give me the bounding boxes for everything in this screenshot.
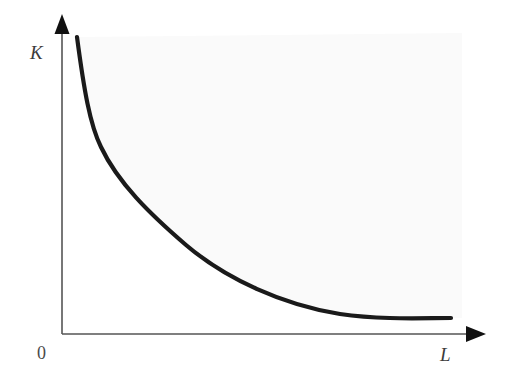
labor-axis-label: L (440, 345, 451, 364)
isoquant-figure: K L 0 (0, 0, 512, 381)
arrow-up-icon (55, 14, 70, 34)
origin-label: 0 (37, 344, 46, 362)
plot-area (0, 0, 512, 381)
capital-axis-label: K (30, 43, 43, 62)
feasible-region-shading (79, 33, 462, 318)
arrow-right-icon (466, 326, 486, 342)
